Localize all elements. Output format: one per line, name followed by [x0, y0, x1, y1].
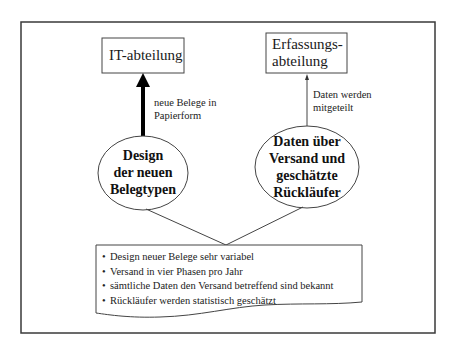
- data-to-capture-edge-label: Daten werden mitgeteilt: [313, 88, 372, 114]
- note-bullet-list: •Design neuer Belege sehr variabel •Vers…: [102, 250, 334, 308]
- list-item-text: sämtliche Daten den Versand betreffend s…: [110, 280, 334, 291]
- design-ellipse-line-1: Design: [98, 147, 188, 164]
- capture-department-line-2: abteilung: [272, 53, 343, 70]
- list-item: •Versand in vier Phasen pro Jahr: [102, 265, 334, 280]
- list-item-text: Versand in vier Phasen pro Jahr: [110, 266, 243, 277]
- bullet-icon: •: [102, 279, 110, 294]
- data-ellipse-line-2: Versand und: [255, 150, 359, 167]
- capture-department-line-1: Erfassungs-: [272, 36, 343, 53]
- edge-label-line-1: neue Belege in: [154, 96, 216, 109]
- design-to-it-edge-label: neue Belege in Papierform: [154, 96, 216, 122]
- edge-label-line-2: Papierform: [154, 109, 216, 122]
- edge-label-line-2: mitgeteilt: [313, 101, 372, 114]
- list-item: •Rückläufer werden statistisch geschätzt: [102, 294, 334, 309]
- design-ellipse-line-3: Belegtypen: [98, 181, 188, 198]
- bullet-icon: •: [102, 250, 110, 265]
- bullet-icon: •: [102, 265, 110, 280]
- list-item-text: Rückläufer werden statistisch geschätzt: [110, 295, 276, 306]
- design-ellipse-label: Design der neuen Belegtypen: [98, 147, 188, 198]
- list-item-text: Design neuer Belege sehr variabel: [110, 251, 254, 262]
- data-ellipse-line-4: Rückläufer: [255, 184, 359, 201]
- data-ellipse-label: Daten über Versand und geschätzte Rücklä…: [255, 133, 359, 201]
- list-item: •Design neuer Belege sehr variabel: [102, 250, 334, 265]
- capture-department-label: Erfassungs- abteilung: [272, 36, 343, 70]
- design-ellipse-line-2: der neuen: [98, 164, 188, 181]
- it-department-label: IT-abteilung: [109, 47, 183, 64]
- edge-label-line-1: Daten werden: [313, 88, 372, 101]
- data-ellipse-line-3: geschätzte: [255, 167, 359, 184]
- list-item: •sämtliche Daten den Versand betreffend …: [102, 279, 334, 294]
- bullet-icon: •: [102, 294, 110, 309]
- data-ellipse-line-1: Daten über: [255, 133, 359, 150]
